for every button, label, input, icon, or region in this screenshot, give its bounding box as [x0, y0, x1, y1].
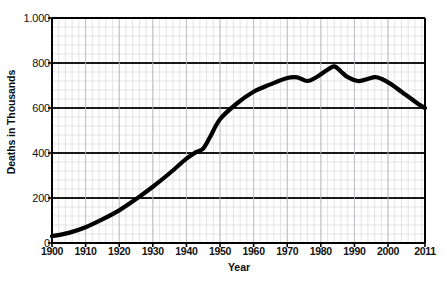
- plot-area: [0, 0, 445, 282]
- x-tick-label: 2011: [402, 245, 445, 257]
- major-gridlines: [52, 18, 425, 243]
- x-axis-tick-labels: 1900191019201930194019501960197019801990…: [0, 245, 445, 261]
- x-axis-title: Year: [52, 261, 426, 273]
- chart-figure: Deaths in Thousands 02004006008001.000 1…: [0, 0, 445, 282]
- axis-frame: [52, 18, 425, 243]
- data-series-line: [52, 66, 425, 236]
- minor-gridlines: [52, 18, 425, 243]
- axis-tick-marks: [48, 18, 425, 247]
